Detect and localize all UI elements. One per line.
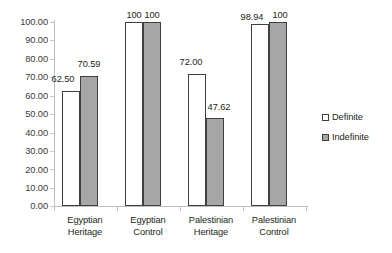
bar-indefinite[interactable] <box>206 118 224 206</box>
bar-value-label: 100 <box>135 10 169 20</box>
bar-group: 62.50 70.59 <box>54 22 116 206</box>
x-category-line: Palestinian <box>241 214 307 226</box>
bar-definite[interactable] <box>62 91 80 206</box>
bar-group: 100 100 <box>117 22 179 206</box>
y-tick-label: 100.00 <box>0 17 48 27</box>
x-axis-tick <box>117 206 118 211</box>
bar-value-label: 100 <box>263 10 297 20</box>
x-category-label: Egyptian Heritage <box>52 214 118 238</box>
bar-indefinite[interactable] <box>269 22 287 206</box>
bar-definite[interactable] <box>125 22 143 206</box>
y-tick-label: 0.00 <box>0 201 48 211</box>
y-tick-label: 10.00 <box>0 183 48 193</box>
y-tick-label: 70.00 <box>0 72 48 82</box>
y-axis: 100.00 90.00 80.00 70.00 60.00 50.00 40.… <box>0 0 48 253</box>
bar-definite[interactable] <box>251 24 269 206</box>
legend-swatch-icon <box>322 134 329 141</box>
x-category-label: Egyptian Control <box>115 214 181 238</box>
y-tick-label: 20.00 <box>0 165 48 175</box>
legend-item-indefinite[interactable]: Indefinite <box>322 132 392 143</box>
x-axis-tick <box>243 206 244 211</box>
x-category-line: Palestinian <box>178 214 244 226</box>
x-category-label: Palestinian Control <box>241 214 307 238</box>
legend-label: Definite <box>332 112 363 123</box>
x-category-line: Egyptian <box>115 214 181 226</box>
legend-item-definite[interactable]: Definite <box>322 112 392 123</box>
plot-area: 62.50 70.59 100 100 72.00 47.62 98.94 10… <box>54 22 307 206</box>
x-axis-line <box>54 206 308 207</box>
chart-legend: Definite Indefinite <box>322 112 392 152</box>
bar-group: 98.94 100 <box>243 22 305 206</box>
bar-indefinite[interactable] <box>80 76 98 206</box>
x-category-line: Heritage <box>178 226 244 238</box>
x-category-label: Palestinian Heritage <box>178 214 244 238</box>
y-tick-label: 40.00 <box>0 128 48 138</box>
bar-value-label: 70.59 <box>72 59 106 69</box>
x-category-line: Control <box>241 226 307 238</box>
y-tick-label: 50.00 <box>0 109 48 119</box>
y-tick-label: 30.00 <box>0 146 48 156</box>
x-axis-tick <box>180 206 181 211</box>
bar-group: 72.00 47.62 <box>180 22 242 206</box>
x-axis-tick <box>54 206 55 211</box>
y-tick-label: 80.00 <box>0 54 48 64</box>
y-tick-label: 60.00 <box>0 91 48 101</box>
legend-swatch-icon <box>322 114 329 121</box>
bar-chart: 100.00 90.00 80.00 70.00 60.00 50.00 40.… <box>0 0 392 253</box>
bar-definite[interactable] <box>188 74 206 207</box>
bar-value-label: 62.50 <box>46 74 80 84</box>
bar-value-label: 72.00 <box>174 57 208 67</box>
legend-label: Indefinite <box>332 132 369 143</box>
x-category-line: Egyptian <box>52 214 118 226</box>
bar-indefinite[interactable] <box>143 22 161 206</box>
bar-value-label: 47.62 <box>202 102 236 112</box>
x-category-line: Heritage <box>52 226 118 238</box>
x-axis-tick <box>306 206 307 211</box>
x-category-line: Control <box>115 226 181 238</box>
y-tick-label: 90.00 <box>0 35 48 45</box>
